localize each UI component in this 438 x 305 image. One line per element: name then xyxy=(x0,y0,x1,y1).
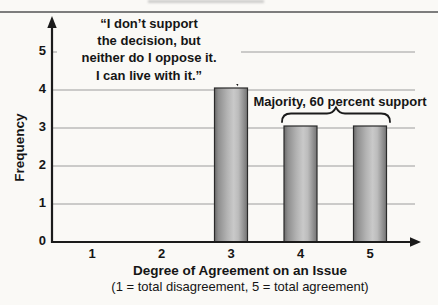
x-tick-label: 2 xyxy=(149,246,175,262)
y-tick-label: 5 xyxy=(20,43,46,59)
y-axis-title: Frequency xyxy=(12,100,29,196)
x-tick-label: 5 xyxy=(357,246,383,262)
y-axis-arrowhead xyxy=(47,16,56,28)
x-tick-label: 1 xyxy=(79,246,105,262)
y-tick-label: 1 xyxy=(20,195,46,211)
quote-annotation: “I don’t support the decision, but neith… xyxy=(57,15,241,84)
y-tick-label: 3 xyxy=(20,119,46,135)
x-tick-label: 4 xyxy=(288,246,314,262)
x-axis-title: Degree of Agreement on an Issue xyxy=(70,263,410,278)
x-axis-arrowhead xyxy=(410,237,421,246)
statistics-figure: Frequency “I don’t support the decision,… xyxy=(0,0,438,305)
y-tick-label: 2 xyxy=(20,157,46,173)
x-axis-subtitle: (1 = total disagreement, 5 = total agree… xyxy=(70,279,410,294)
majority-annotation: Majority, 60 percent support xyxy=(240,94,438,109)
x-tick-label: 3 xyxy=(218,246,244,262)
brace xyxy=(282,108,390,123)
bar xyxy=(215,88,248,242)
bar xyxy=(354,126,387,242)
y-tick-label: 4 xyxy=(20,81,46,97)
y-tick-label: 0 xyxy=(20,233,46,249)
bar xyxy=(284,126,317,242)
